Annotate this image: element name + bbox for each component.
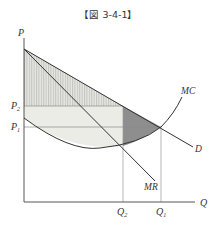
y-axis-label: P <box>17 27 24 38</box>
p1-label: P1 <box>10 121 20 133</box>
producer-surplus-area <box>24 106 123 147</box>
mr-label: MR <box>143 182 158 192</box>
q2-label: Q2 <box>117 206 127 218</box>
p2-label: P2 <box>10 100 20 112</box>
demand-label: D <box>194 144 202 154</box>
monopoly-diagram: P Q MC D MR P2 P1 Q2 Q1 <box>0 0 217 228</box>
q1-label: Q1 <box>156 206 166 218</box>
mc-label: MC <box>180 86 196 96</box>
x-axis-label: Q <box>200 197 208 208</box>
deadweight-loss-area <box>123 106 161 146</box>
